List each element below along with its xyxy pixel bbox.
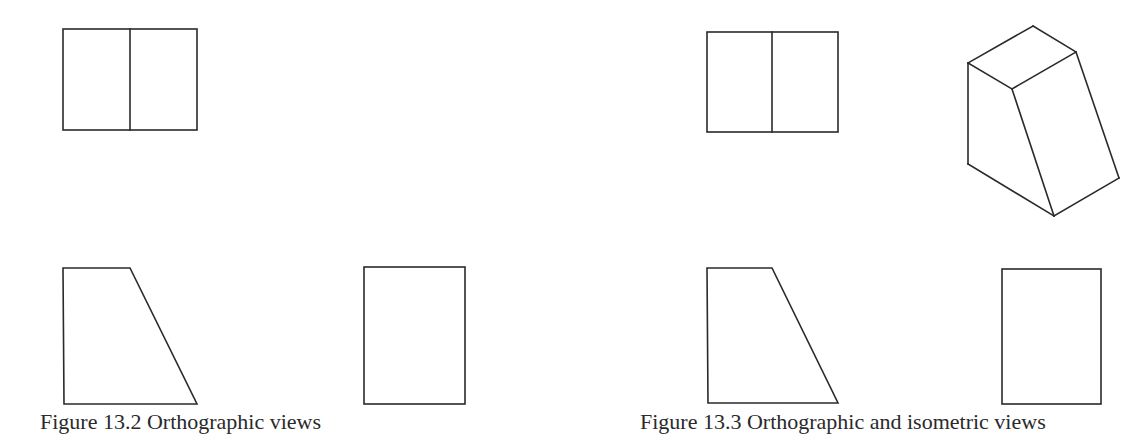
iso-edge-top-front-left (968, 63, 1012, 89)
iso-edge-bottom-left (968, 164, 1054, 216)
isometric-wedge-block (968, 26, 1119, 216)
left-front-view-trapezoid (63, 268, 197, 404)
right-front-view-trapezoid (707, 268, 838, 403)
iso-edge-top-back-right (1033, 26, 1076, 52)
iso-edge-bottom-right (1054, 178, 1119, 216)
left-side-view (364, 267, 465, 404)
figure-caption-left: Figure 13.2 Orthographic views (40, 411, 321, 433)
iso-edge-slant-front (1012, 89, 1054, 216)
left-projection-set (63, 29, 465, 404)
iso-edge-top-back-left (968, 26, 1033, 63)
right-projection-set (707, 26, 1119, 404)
right-side-view (1002, 269, 1101, 404)
figure-caption-right: Figure 13.3 Orthographic and isometric v… (640, 411, 1046, 433)
iso-edge-top-front-right (1012, 52, 1076, 89)
iso-edge-slant-right (1076, 52, 1119, 178)
